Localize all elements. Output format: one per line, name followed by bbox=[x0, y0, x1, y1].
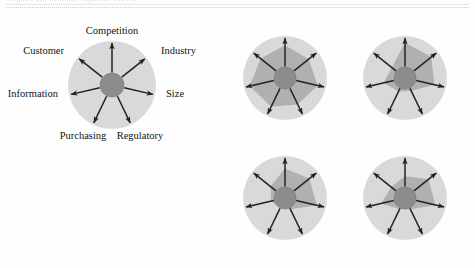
axis-label-size: Size bbox=[166, 89, 184, 100]
figure-page: Figure 9.4 Market segment forces Competi… bbox=[0, 0, 475, 268]
axis-label-purchasing: Purchasing bbox=[60, 131, 107, 142]
wheel-hub bbox=[274, 67, 296, 89]
axis-label-information: Information bbox=[8, 89, 58, 100]
wheel-hub bbox=[100, 73, 124, 97]
wheel-hub bbox=[394, 187, 416, 209]
axis-label-customer: Customer bbox=[23, 46, 64, 57]
wheel-hub bbox=[394, 67, 416, 89]
labelled-forces-wheel bbox=[68, 41, 156, 129]
axis-label-competition: Competition bbox=[86, 26, 139, 37]
axis-label-industry: Industry bbox=[161, 46, 196, 57]
segment-profile-bottom-right bbox=[363, 156, 447, 240]
wheel-hub bbox=[274, 187, 296, 209]
segment-profile-top-left bbox=[243, 36, 327, 120]
segment-profile-top-right bbox=[363, 36, 447, 120]
axis-label-regulatory: Regulatory bbox=[117, 131, 164, 142]
segment-profile-bottom-left bbox=[243, 156, 327, 240]
